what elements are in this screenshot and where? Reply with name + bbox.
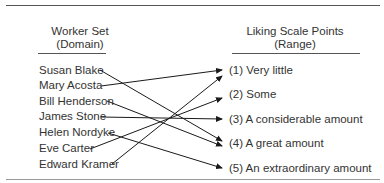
arrow-helen-to-5 xyxy=(108,133,222,168)
bottom-rule xyxy=(6,179,380,180)
arrow-mary-to-1 xyxy=(101,70,222,86)
arrow-james-to-3 xyxy=(101,117,222,119)
arrow-eve-to-2 xyxy=(90,98,222,149)
mapping-arrows xyxy=(0,0,384,183)
